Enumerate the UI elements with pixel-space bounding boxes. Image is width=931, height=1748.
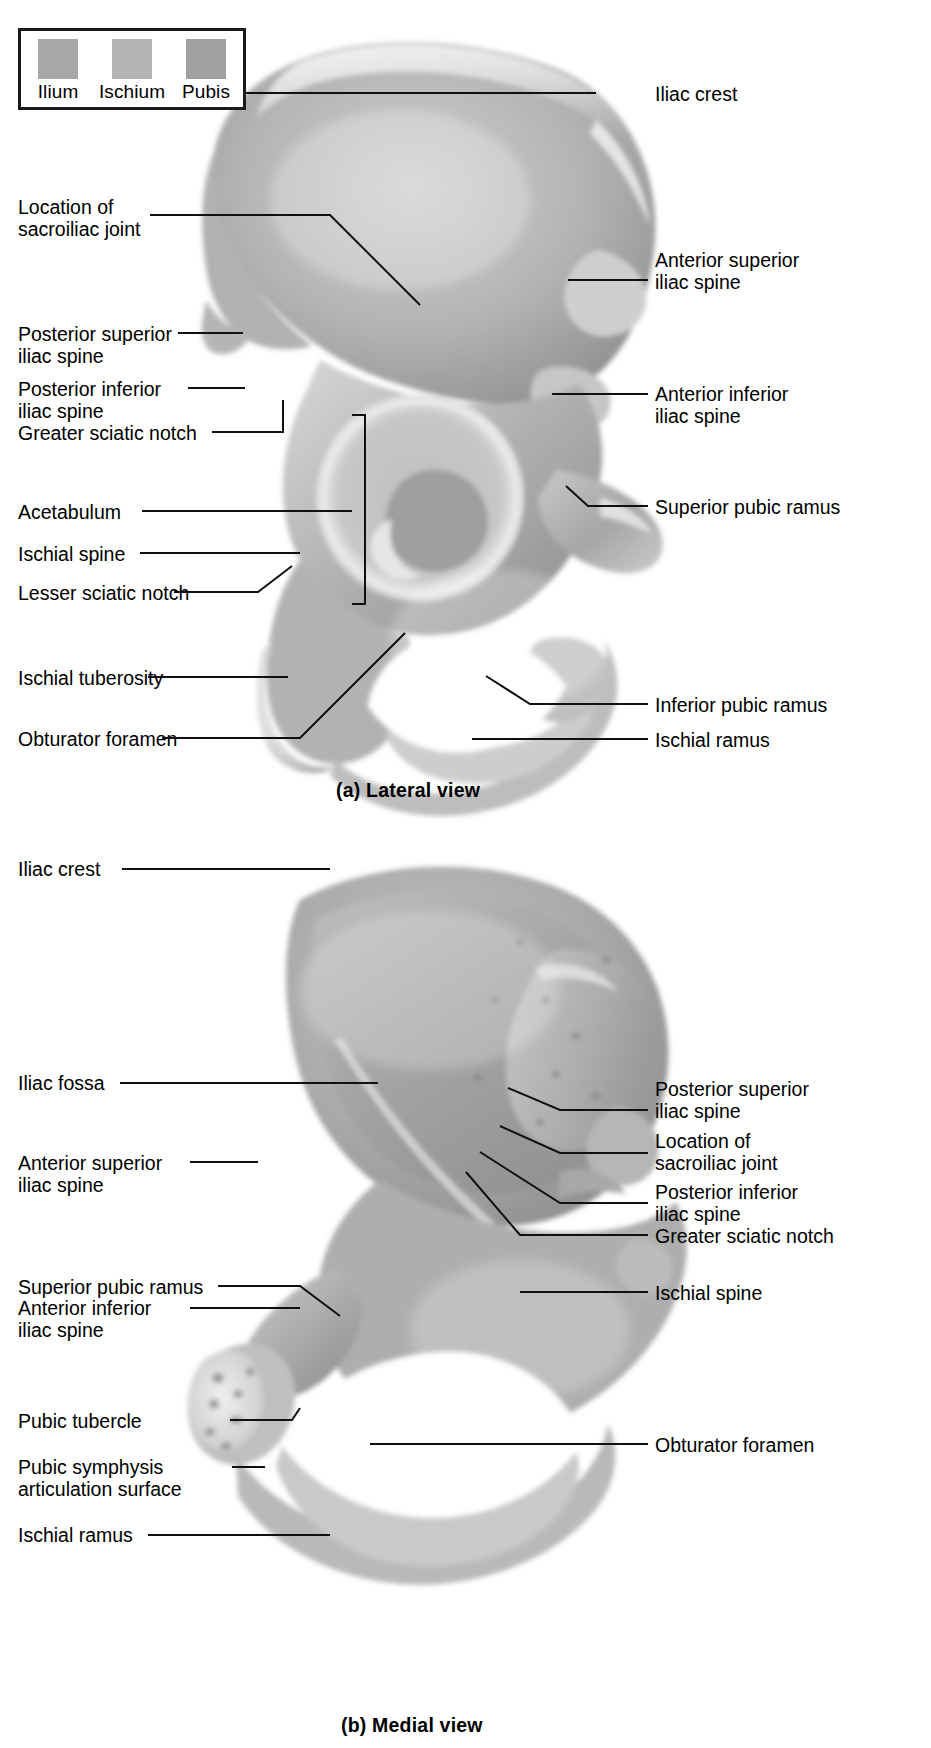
caption-lateral-view: (a) Lateral view <box>336 779 480 802</box>
label-anterior-superior-iliac-spine-medial: Anterior superior iliac spine <box>18 1152 162 1196</box>
label-iliac-crest-medial: Iliac crest <box>18 858 100 880</box>
label-pubic-tubercle-medial: Pubic tubercle <box>18 1410 142 1432</box>
label-iliac-fossa-medial: Iliac fossa <box>18 1072 105 1094</box>
label-obturator-foramen-medial: Obturator foramen <box>655 1434 814 1456</box>
label-acetabulum-lateral: Acetabulum <box>18 501 121 523</box>
legend-swatch-ischium <box>112 39 152 79</box>
label-posterior-inferior-iliac-spine-medial: Posterior inferior iliac spine <box>655 1181 798 1225</box>
legend-label-ischium: Ischium <box>99 81 165 103</box>
label-superior-pubic-ramus-lateral: Superior pubic ramus <box>655 496 840 518</box>
label-obturator-foramen-lateral: Obturator foramen <box>18 728 177 750</box>
hip-bone-lateral <box>202 42 663 816</box>
label-inferior-pubic-ramus-lateral: Inferior pubic ramus <box>655 694 827 716</box>
label-ischial-spine-lateral: Ischial spine <box>18 543 125 565</box>
legend-item-ischium: Ischium <box>98 39 166 103</box>
label-ischial-tuberosity-lateral: Ischial tuberosity <box>18 667 163 689</box>
legend-swatch-pubis <box>186 39 226 79</box>
label-posterior-inferior-iliac-spine-lateral: Posterior inferior iliac spine <box>18 378 161 422</box>
label-location-of-sacroiliac-joint-medial: Location of sacroiliac joint <box>655 1130 777 1174</box>
hip-bone-medial <box>188 867 687 1585</box>
legend-item-ilium: Ilium <box>24 39 92 103</box>
figure-hip-bone: Ilium Ischium Pubis Location of sacroili… <box>0 0 931 1748</box>
label-ischial-ramus-lateral: Ischial ramus <box>655 729 770 751</box>
legend-label-ilium: Ilium <box>38 81 79 103</box>
label-greater-sciatic-notch-medial: Greater sciatic notch <box>655 1225 834 1247</box>
caption-medial-view: (b) Medial view <box>341 1714 483 1737</box>
label-anterior-superior-iliac-spine-lateral: Anterior superior iliac spine <box>655 249 799 293</box>
label-iliac-crest-lateral: Iliac crest <box>655 83 737 105</box>
label-ischial-spine-medial: Ischial spine <box>655 1282 762 1304</box>
bone-color-legend: Ilium Ischium Pubis <box>18 28 246 110</box>
label-anterior-inferior-iliac-spine-lateral: Anterior inferior iliac spine <box>655 383 788 427</box>
label-lesser-sciatic-notch-lateral: Lesser sciatic notch <box>18 582 189 604</box>
label-posterior-superior-iliac-spine-lateral: Posterior superior iliac spine <box>18 323 172 367</box>
legend-item-pubis: Pubis <box>172 39 240 103</box>
label-location-of-sacroiliac-joint-lateral: Location of sacroiliac joint <box>18 196 140 240</box>
label-posterior-superior-iliac-spine-medial: Posterior superior iliac spine <box>655 1078 809 1122</box>
label-greater-sciatic-notch-lateral: Greater sciatic notch <box>18 422 197 444</box>
legend-swatch-ilium <box>38 39 78 79</box>
label-superior-pubic-ramus-medial: Superior pubic ramus <box>18 1276 203 1298</box>
label-anterior-inferior-iliac-spine-medial: Anterior inferior iliac spine <box>18 1297 151 1341</box>
label-ischial-ramus-medial: Ischial ramus <box>18 1524 133 1546</box>
label-pubic-symphysis-articulation-surface-medial: Pubic symphysis articulation surface <box>18 1456 182 1500</box>
legend-label-pubis: Pubis <box>182 81 230 103</box>
